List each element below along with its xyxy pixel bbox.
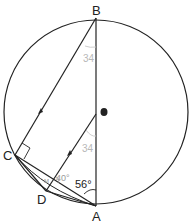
center-point: [101, 108, 108, 116]
label-B: B: [92, 3, 101, 18]
label-D: D: [37, 192, 46, 207]
angle-label-56: 56°: [75, 178, 92, 190]
segment-BC: [15, 18, 96, 155]
angle-label-34-mid: 34: [82, 143, 94, 154]
angle-arc-O-faint: [86, 130, 96, 136]
angle-label-tiny: M: [44, 178, 49, 184]
angle-label-34-top: 34: [83, 53, 95, 64]
angle-label-40: 40°: [56, 173, 70, 183]
angle-arc-A: [84, 190, 96, 195]
geometry-diagram: B A C D 56° 34 34 40° M: [0, 0, 195, 224]
angle-arc-B-faint: [85, 46, 96, 47]
label-A: A: [92, 209, 101, 224]
right-angle-mark-C: [22, 143, 30, 159]
label-C: C: [3, 148, 12, 163]
